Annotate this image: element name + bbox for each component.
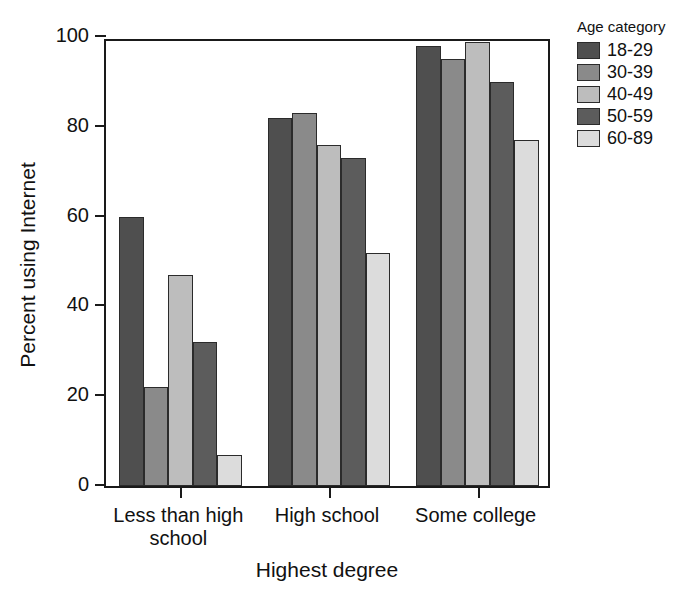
x-category-label-2: Some college <box>381 504 571 527</box>
legend-item-label: 18-29 <box>607 40 653 61</box>
y-tick-label: 100 <box>56 24 89 47</box>
bar-18-29-less-than-high-school <box>119 217 144 486</box>
bar-40-49-high-school <box>317 145 342 486</box>
bar-60-89-less-than-high-school <box>217 455 242 486</box>
y-tick-label: 20 <box>67 383 89 406</box>
legend-item-30-39: 30-39 <box>577 62 687 82</box>
bar-18-29-high-school <box>268 118 293 486</box>
legend-item-label: 30-39 <box>607 62 653 83</box>
bar-40-49-some-college <box>465 42 490 487</box>
bar-50-59-some-college <box>490 82 515 486</box>
legend-swatch-icon <box>577 130 600 147</box>
y-tick-label: 40 <box>67 293 89 316</box>
y-axis-title-text: Percent using Internet <box>16 162 40 367</box>
y-tick-40: 40 <box>95 304 106 306</box>
bar-50-59-high-school <box>341 158 366 486</box>
bar-30-39-some-college <box>441 59 466 486</box>
y-tick-20: 20 <box>95 394 106 396</box>
y-tick-label: 60 <box>67 204 89 227</box>
legend-item-60-89: 60-89 <box>577 128 687 148</box>
legend-item-18-29: 18-29 <box>577 40 687 60</box>
legend-entries: 18-2930-3940-4950-5960-89 <box>577 40 687 148</box>
bar-30-39-high-school <box>292 113 317 486</box>
y-tick-0: 0 <box>95 484 106 486</box>
legend-title: Age category <box>577 18 687 35</box>
y-tick-100: 100 <box>95 35 106 37</box>
x-category-label-line: Some college <box>381 504 571 527</box>
bar-30-39-less-than-high-school <box>144 387 169 486</box>
x-axis-title: Highest degree <box>104 558 550 582</box>
x-category-label-line: school <box>83 527 273 550</box>
bar-chart-figure: Percent using Internet 020406080100 Less… <box>0 0 688 604</box>
legend-swatch-icon <box>577 64 600 81</box>
bar-60-89-high-school <box>366 253 391 486</box>
x-tick-1 <box>329 486 331 498</box>
bar-50-59-less-than-high-school <box>193 342 218 486</box>
y-axis-title: Percent using Internet <box>10 40 46 490</box>
plot-area: 020406080100 <box>104 39 550 488</box>
y-tick-label: 80 <box>67 114 89 137</box>
bar-18-29-some-college <box>416 46 441 486</box>
legend-item-label: 40-49 <box>607 84 653 105</box>
legend-item-label: 50-59 <box>607 106 653 127</box>
legend-item-50-59: 50-59 <box>577 106 687 126</box>
y-tick-80: 80 <box>95 125 106 127</box>
x-tick-2 <box>478 486 480 498</box>
bar-60-89-some-college <box>514 140 539 486</box>
legend-swatch-icon <box>577 42 600 59</box>
x-tick-0 <box>180 486 182 498</box>
bar-40-49-less-than-high-school <box>168 275 193 486</box>
y-tick-60: 60 <box>95 215 106 217</box>
legend-item-40-49: 40-49 <box>577 84 687 104</box>
legend-swatch-icon <box>577 108 600 125</box>
legend: Age category 18-2930-3940-4950-5960-89 <box>577 18 687 150</box>
y-tick-label: 0 <box>78 473 89 496</box>
legend-item-label: 60-89 <box>607 128 653 149</box>
legend-swatch-icon <box>577 86 600 103</box>
